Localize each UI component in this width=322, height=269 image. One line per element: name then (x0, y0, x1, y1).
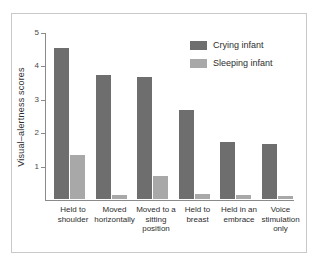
legend-item: Sleeping infant (190, 59, 273, 68)
y-tick-label: 5 (35, 29, 39, 37)
bar-group (51, 32, 93, 199)
legend-swatch (190, 41, 207, 50)
bar-crying (179, 110, 194, 200)
y-tick-mark (41, 100, 45, 101)
bar-group (93, 32, 135, 199)
y-tick-label: 2 (35, 129, 39, 137)
chart-legend: Crying infantSleeping infant (190, 41, 273, 77)
y-tick-label: 1 (35, 163, 39, 171)
y-tick-mark (41, 167, 45, 168)
bar-sleeping (112, 195, 127, 199)
y-tick-mark (41, 66, 45, 67)
legend-label: Sleeping infant (213, 59, 273, 68)
y-axis-title: Visual–alertness scores (16, 67, 26, 166)
y-tick-label: 4 (35, 62, 39, 70)
x-axis-label-line: stimulation (255, 215, 307, 225)
bar-sleeping (278, 196, 293, 199)
bar-crying (137, 77, 152, 199)
y-axis-line (45, 33, 46, 200)
legend-label: Crying infant (213, 41, 264, 50)
bar-crying (96, 75, 111, 199)
legend-swatch (190, 59, 207, 68)
bar-sleeping (236, 195, 251, 199)
bar-sleeping (153, 176, 168, 199)
figure-frame: Visual–alertness scores 54321 Held tosho… (11, 13, 307, 253)
x-axis-label-line: Voice (255, 205, 307, 215)
bar-sleeping (195, 194, 210, 199)
y-tick-label: 3 (35, 96, 39, 104)
legend-item: Crying infant (190, 41, 273, 50)
x-axis-label: Voicestimulationonly (255, 205, 307, 234)
y-tick-mark (41, 33, 45, 34)
x-axis-label-line: position (130, 224, 182, 234)
bar-sleeping (70, 155, 85, 199)
bar-crying (220, 142, 235, 199)
y-tick-mark (41, 133, 45, 134)
bar-crying (54, 48, 69, 199)
x-axis-line (45, 200, 294, 201)
bar-group (134, 32, 176, 199)
x-axis-label-line: only (255, 224, 307, 234)
bar-crying (262, 144, 277, 199)
